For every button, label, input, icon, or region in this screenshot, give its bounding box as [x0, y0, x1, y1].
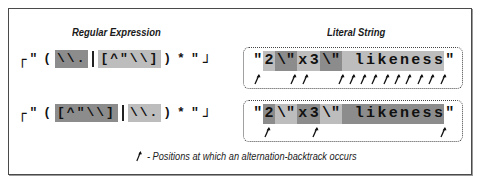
literal-char: e [388, 51, 399, 71]
literal-char: 3 [308, 104, 319, 124]
backtrack-arrow-icon [348, 73, 358, 85]
literal-string-1: "2\"x3\" likeness" [252, 51, 455, 71]
regex-token: " [189, 104, 203, 122]
literal-char: x [297, 104, 308, 124]
literal-char: " [444, 51, 455, 71]
backtrack-arrow-icon [311, 126, 321, 138]
regex-token: * [175, 50, 189, 68]
literal-char: l [354, 51, 365, 71]
literal-char: " [252, 104, 263, 124]
literal-char: x [297, 51, 308, 71]
backtrack-arrow-icon [439, 73, 449, 85]
literal-char: l [354, 104, 365, 124]
literal-char: s [433, 104, 444, 124]
backtrack-arrow-icon [439, 126, 449, 138]
literal-char: e [410, 51, 421, 71]
regex-token: ) [161, 50, 175, 68]
regex-alternative-light: [^"\\] [98, 50, 161, 68]
literal-char: \" [275, 51, 298, 71]
regex-token: ( [41, 104, 55, 122]
backtrack-arrow-icon [416, 73, 426, 85]
literal-char: s [421, 104, 432, 124]
backtrack-arrow-icon [370, 73, 380, 85]
literal-char [342, 51, 353, 71]
literal-char: i [365, 104, 376, 124]
backtrack-arrow-icon [382, 73, 392, 85]
literal-char: e [388, 104, 399, 124]
heading-regular-expression: Regular Expression [72, 26, 161, 38]
literal-char: 2 [263, 104, 274, 124]
legend: - Positions at which an alternation-back… [135, 150, 357, 162]
literal-char: e [410, 104, 421, 124]
regex-token: " [27, 104, 41, 122]
literal-char: 3 [308, 51, 319, 71]
literal-string-2: "2\"x3\" likeness" [252, 104, 455, 124]
literal-char: n [399, 104, 410, 124]
regex-alternative-dark: \\. [55, 50, 88, 68]
literal-char: " [252, 51, 263, 71]
literal-char: 2 [263, 51, 274, 71]
literal-char: n [399, 51, 410, 71]
backtrack-arrow-icon [301, 73, 311, 85]
regex-token: " [189, 50, 203, 68]
backtrack-arrow-icon [263, 126, 273, 138]
backtrack-arrow-icon [289, 73, 299, 85]
heading-literal-string: Literal String [327, 26, 385, 38]
backtrack-arrow-icon [253, 73, 263, 85]
literal-char: s [421, 51, 432, 71]
literal-char: s [433, 51, 444, 71]
regex-token: * [175, 104, 189, 122]
regex-row-2: ┌"([^"\\]\\.)*"┘ [18, 103, 211, 123]
backtrack-arrow-icon [135, 150, 144, 162]
backtrack-arrow-icon [404, 73, 414, 85]
backtrack-arrow-icon [337, 73, 347, 85]
regex-end-mark: ┘ [203, 54, 211, 70]
regex-end-mark: ┘ [203, 108, 211, 124]
regex-token: ( [41, 50, 55, 68]
literal-char: k [376, 104, 387, 124]
regex-alternative-dark: [^"\\] [55, 104, 118, 122]
regex-start-mark: ┌ [18, 51, 26, 67]
regex-token: " [27, 50, 41, 68]
literal-char: i [365, 51, 376, 71]
backtrack-arrow-icon [427, 73, 437, 85]
backtrack-arrow-icon [393, 73, 403, 85]
backtrack-arrow-icon [359, 73, 369, 85]
alternation-bar [92, 51, 94, 67]
literal-char: " [444, 104, 455, 124]
regex-alternative-light: \\. [128, 104, 161, 122]
legend-text: - Positions at which an alternation-back… [147, 151, 357, 162]
regex-start-mark: ┌ [18, 105, 26, 121]
literal-char: \" [275, 104, 298, 124]
regex-row-1: ┌"(\\.[^"\\])*"┘ [18, 49, 211, 69]
literal-char: \" [320, 51, 343, 71]
literal-char: k [376, 51, 387, 71]
literal-char: \" [320, 104, 343, 124]
literal-char [342, 104, 353, 124]
regex-token: ) [161, 104, 175, 122]
alternation-bar [122, 105, 124, 121]
